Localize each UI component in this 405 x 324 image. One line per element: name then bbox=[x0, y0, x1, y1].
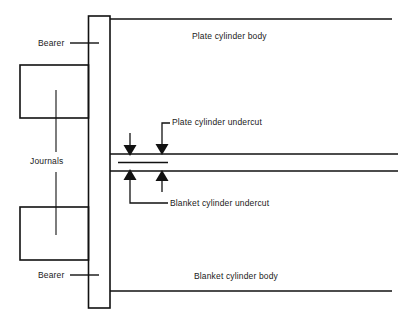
label-bearer-bottom: Bearer bbox=[38, 270, 64, 280]
blanket-undercut-leader-line bbox=[130, 195, 168, 203]
label-journals: Journals bbox=[30, 156, 63, 166]
plate-undercut-leader-line bbox=[162, 123, 170, 131]
label-plate-cylinder-undercut: Plate cylinder undercut bbox=[172, 117, 262, 127]
journal-box-upper bbox=[20, 65, 89, 118]
bearer-bar bbox=[89, 16, 111, 308]
label-bearer-top: Bearer bbox=[38, 38, 64, 48]
cylinder-undercut-diagram: Bearer Journals Bearer Plate cylinder bo… bbox=[0, 0, 405, 324]
journal-box-lower bbox=[20, 207, 89, 260]
label-blanket-cylinder-body: Blanket cylinder body bbox=[194, 271, 278, 281]
label-blanket-cylinder-undercut: Blanket cylinder undercut bbox=[170, 198, 269, 208]
label-plate-cylinder-body: Plate cylinder body bbox=[192, 31, 267, 41]
